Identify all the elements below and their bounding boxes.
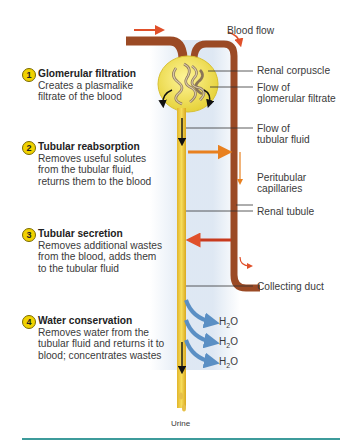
step-glomerular-filtration: 1 Glomerular filtration Creates a plasma… [22,68,136,103]
step-desc-line: Removes water from the [22,327,164,339]
step-desc-line: from the blood, adds them [22,251,162,263]
footer-divider [22,438,340,440]
label-flow-glomerular-1: Flow of [257,82,290,94]
urine-drop [179,393,183,400]
label-peritubular-2: capillaries [257,183,302,195]
step-desc-line: returns them to the blood [22,176,151,188]
step-desc-line: to the tubular fluid [22,263,162,275]
step-desc-line: Removes useful solutes [22,153,151,165]
urine-drop [182,405,186,412]
water-label: H2O [219,336,238,349]
step-desc-line: from the tubular fluid, [22,164,151,176]
step-title: Tubular reabsorption [22,141,151,153]
step-tubular-reabsorption: 2 Tubular reabsorption Removes useful so… [22,141,151,187]
water-label: H2O [219,316,238,329]
label-flow-tubular-2: tubular fluid [257,134,310,146]
label-flow-glomerular-2: glomerular filtrate [257,93,336,105]
step-desc-line: Removes additional wastes [22,240,162,252]
step-number-badge: 1 [22,68,36,82]
step-title: Water conservation [22,315,164,327]
blood-flow-label: Blood flow [227,25,274,37]
step-water-conservation: 4 Water conservation Removes water from … [22,315,164,361]
step-number-badge: 2 [22,141,36,155]
water-arrows [186,300,212,362]
step-desc-line: tubular fluid and returns it to [22,338,164,350]
step-number-badge: 3 [22,228,36,242]
step-tubular-secretion: 3 Tubular secretion Removes additional w… [22,228,162,274]
label-renal-corpuscle: Renal corpuscle [257,65,330,77]
label-renal-tubule: Renal tubule [257,206,314,218]
step-title: Tubular secretion [22,228,162,240]
step-title: Glomerular filtration [22,68,136,80]
step-number-badge: 4 [22,315,36,329]
label-flow-tubular-1: Flow of [257,123,290,135]
label-collecting-duct: Collecting duct [257,281,324,293]
step-desc-line: Creates a plasmalike [22,80,136,92]
step-desc-line: filtrate of the blood [22,91,136,103]
step-desc-line: blood; concentrates wastes [22,350,164,362]
label-urine: Urine [171,418,190,430]
label-peritubular-1: Peritubular [257,172,306,184]
water-label: H2O [219,356,238,369]
